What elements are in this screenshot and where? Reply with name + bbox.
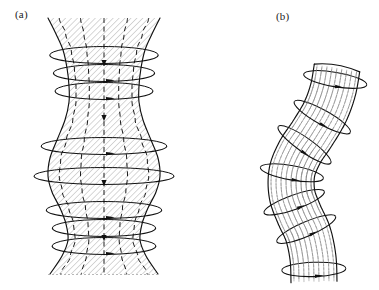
kink-instability-drawing <box>0 0 379 290</box>
panel-b-tube-hatching <box>271 66 357 282</box>
tube-hatch-stroke <box>333 255 334 261</box>
figure-root: (a) (b) <box>0 0 379 290</box>
tube-hatch-stroke <box>272 162 273 167</box>
